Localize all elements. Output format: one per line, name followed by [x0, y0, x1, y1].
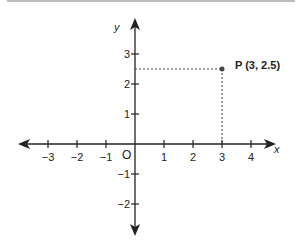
origin-label: O: [122, 148, 131, 162]
point-guides: [135, 67, 225, 145]
y-tick-label: 2: [124, 78, 130, 90]
x-tick-label: 1: [161, 151, 167, 163]
y-tick-label: 1: [124, 108, 130, 120]
x-tick-label: 2: [190, 151, 196, 163]
y-tick-label: 3: [124, 48, 130, 60]
axes: [18, 18, 276, 236]
coordinate-plane: −3−2−11234 321−1−2 y x O P (3, 2.5): [0, 0, 304, 252]
y-axis-label: y: [113, 21, 121, 33]
x-tick-label: 4: [248, 151, 254, 163]
y-tick-label: −2: [117, 198, 130, 210]
x-tick-label: 3: [219, 151, 225, 163]
x-tick-label: −3: [42, 151, 55, 163]
point-label: P (3, 2.5): [235, 59, 280, 71]
x-axis-label: x: [273, 143, 280, 155]
x-tick-label: −1: [100, 151, 113, 163]
y-tick-label: −1: [117, 168, 130, 180]
point-p-marker: [220, 67, 225, 72]
y-ticks: 321−1−2: [117, 48, 139, 210]
x-tick-label: −2: [71, 151, 84, 163]
